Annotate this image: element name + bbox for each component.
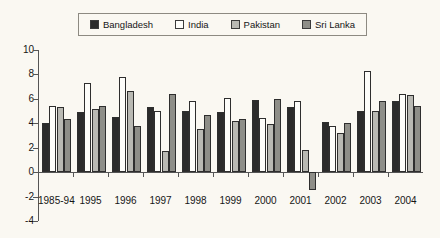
bar-india-1997[interactable]: [154, 111, 161, 172]
y-tick-label: 4: [6, 118, 34, 128]
x-tick-label: 2004: [388, 196, 423, 206]
legend-label: India: [188, 20, 209, 30]
y-tick-label: 0: [6, 167, 34, 177]
x-tick-label: 1997: [143, 196, 178, 206]
x-tick-label: 1985-94: [38, 196, 73, 206]
x-tick: [388, 172, 389, 177]
x-tick: [318, 172, 319, 177]
chart-legend: BangladeshIndiaPakistanSri Lanka: [78, 13, 367, 36]
bar-pakistan-1996[interactable]: [127, 91, 134, 172]
y-tick-label: 6: [6, 94, 34, 104]
bar-india-2004[interactable]: [399, 94, 406, 172]
y-tick-label: 10: [6, 45, 34, 55]
legend-swatch-bangladesh-icon: [90, 20, 99, 29]
bar-sri-lanka-1995[interactable]: [99, 106, 106, 172]
bar-pakistan-1997[interactable]: [162, 151, 169, 172]
x-tick: [73, 172, 74, 177]
bar-india-1996[interactable]: [119, 77, 126, 172]
x-tick: [283, 172, 284, 177]
bar-india-1995[interactable]: [84, 83, 91, 172]
bar-sri-lanka-1985-94[interactable]: [64, 119, 71, 172]
bar-pakistan-1985-94[interactable]: [57, 107, 64, 172]
bar-bangladesh-2002[interactable]: [322, 122, 329, 172]
x-tick: [248, 172, 249, 177]
legend-swatch-sri-lanka-icon: [302, 20, 311, 29]
bar-pakistan-1999[interactable]: [232, 121, 239, 172]
x-tick: [108, 172, 109, 177]
bar-sri-lanka-2002[interactable]: [344, 123, 351, 172]
bar-india-2000[interactable]: [259, 118, 266, 172]
bar-bangladesh-1997[interactable]: [147, 107, 154, 172]
x-tick-label: 2002: [318, 196, 353, 206]
x-tick-label: 1996: [108, 196, 143, 206]
bar-pakistan-2002[interactable]: [337, 133, 344, 172]
bar-bangladesh-1998[interactable]: [182, 111, 189, 172]
x-tick-label: 1998: [178, 196, 213, 206]
legend-swatch-pakistan-icon: [231, 20, 240, 29]
y-tick-label: 8: [6, 69, 34, 79]
bar-sri-lanka-2004[interactable]: [414, 106, 421, 172]
legend-item-bangladesh[interactable]: Bangladesh: [90, 20, 153, 30]
bar-bangladesh-2000[interactable]: [252, 100, 259, 172]
bar-bangladesh-2001[interactable]: [287, 107, 294, 172]
legend-item-india[interactable]: India: [175, 20, 209, 30]
x-tick: [213, 172, 214, 177]
y-tick-label: -2: [6, 192, 34, 202]
bar-india-1998[interactable]: [189, 101, 196, 172]
y-tick: [33, 172, 38, 173]
bar-sri-lanka-1996[interactable]: [134, 126, 141, 172]
bar-india-2002[interactable]: [329, 126, 336, 172]
y-tick: [33, 74, 38, 75]
bar-pakistan-2001[interactable]: [302, 150, 309, 172]
bar-india-2001[interactable]: [294, 101, 301, 172]
bar-bangladesh-1985-94[interactable]: [42, 123, 49, 172]
y-axis-labels: 1086420-2-4: [0, 50, 34, 221]
bar-bangladesh-1999[interactable]: [217, 112, 224, 172]
bar-sri-lanka-1998[interactable]: [204, 115, 211, 172]
bar-chart: BangladeshIndiaPakistanSri Lanka 1086420…: [0, 0, 440, 238]
x-tick-label: 1999: [213, 196, 248, 206]
y-tick: [33, 221, 38, 222]
y-tick-label: -4: [6, 216, 34, 226]
bar-bangladesh-2004[interactable]: [392, 101, 399, 172]
bar-pakistan-2004[interactable]: [407, 95, 414, 172]
y-tick: [33, 99, 38, 100]
x-tick-label: 2000: [248, 196, 283, 206]
bar-bangladesh-2003[interactable]: [357, 111, 364, 172]
x-tick: [178, 172, 179, 177]
x-tick-label: 1995: [73, 196, 108, 206]
bar-sri-lanka-1999[interactable]: [239, 119, 246, 172]
legend-label: Bangladesh: [103, 20, 153, 30]
x-tick-label: 2003: [353, 196, 388, 206]
bar-pakistan-2003[interactable]: [372, 111, 379, 172]
bar-sri-lanka-2001[interactable]: [309, 172, 316, 190]
x-tick: [143, 172, 144, 177]
bar-pakistan-2000[interactable]: [267, 124, 274, 172]
y-tick: [33, 123, 38, 124]
bar-sri-lanka-2003[interactable]: [379, 101, 386, 172]
bar-india-2003[interactable]: [364, 71, 371, 172]
y-tick: [33, 50, 38, 51]
legend-item-pakistan[interactable]: Pakistan: [231, 20, 280, 30]
legend-swatch-india-icon: [175, 20, 184, 29]
legend-label: Sri Lanka: [315, 20, 355, 30]
y-tick-label: 2: [6, 143, 34, 153]
x-axis-labels: 1985-94199519961997199819992000200120022…: [38, 196, 423, 210]
bar-bangladesh-1995[interactable]: [77, 112, 84, 172]
x-tick-label: 2001: [283, 196, 318, 206]
bar-pakistan-1998[interactable]: [197, 129, 204, 172]
bar-sri-lanka-2000[interactable]: [274, 99, 281, 172]
legend-item-sri-lanka[interactable]: Sri Lanka: [302, 20, 355, 30]
bar-pakistan-1995[interactable]: [92, 109, 99, 173]
legend-label: Pakistan: [244, 20, 280, 30]
bar-sri-lanka-1997[interactable]: [169, 94, 176, 172]
bar-india-1985-94[interactable]: [49, 106, 56, 172]
bar-bangladesh-1996[interactable]: [112, 117, 119, 172]
bar-india-1999[interactable]: [224, 98, 231, 173]
y-tick: [33, 148, 38, 149]
x-tick: [353, 172, 354, 177]
